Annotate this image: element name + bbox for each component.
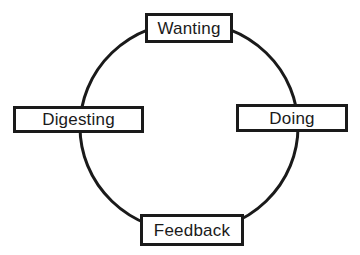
node-wanting-label: Wanting (157, 20, 220, 37)
node-doing-label: Doing (269, 110, 314, 127)
node-wanting: Wanting (145, 13, 233, 43)
cycle-diagram: Wanting Doing Feedback Digesting (0, 0, 360, 255)
node-doing: Doing (236, 104, 348, 132)
node-feedback: Feedback (140, 214, 244, 246)
node-digesting: Digesting (13, 106, 144, 133)
node-digesting-label: Digesting (42, 111, 115, 128)
node-feedback-label: Feedback (154, 222, 230, 239)
